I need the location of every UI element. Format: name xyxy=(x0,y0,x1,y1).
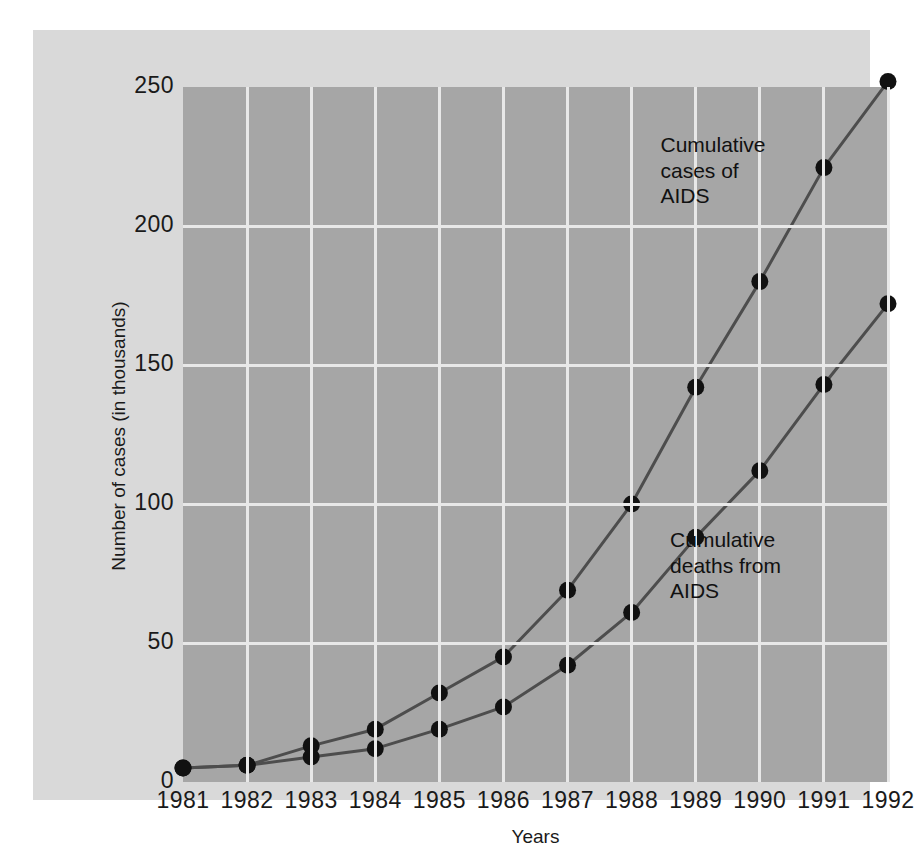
gridline-vertical xyxy=(502,87,505,782)
series-annotation-label: Cumulative cases of AIDS xyxy=(660,132,765,209)
gridline-horizontal xyxy=(183,364,888,367)
gridline-horizontal xyxy=(183,225,888,228)
gridline-vertical xyxy=(310,87,313,782)
y-axis-tick-label: 250 xyxy=(74,72,174,99)
chart-card: 050100150200250 Number of cases (in thou… xyxy=(33,30,870,800)
gridline-horizontal xyxy=(183,642,888,645)
gridline-vertical xyxy=(630,87,633,782)
series-line xyxy=(183,304,888,768)
gridline-vertical xyxy=(246,87,249,782)
x-axis-tick-label: 1992 xyxy=(848,787,918,814)
series-annotation-label: Cumulative deaths from AIDS xyxy=(670,527,781,604)
plot-area: Cumulative cases of AIDSCumulative death… xyxy=(183,87,888,782)
series-layer xyxy=(183,87,888,782)
x-axis-tick-labels: 1981198219831984198519861987198819891990… xyxy=(183,787,888,823)
gridline-vertical xyxy=(887,87,890,782)
gridline-vertical xyxy=(438,87,441,782)
gridline-vertical xyxy=(566,87,569,782)
y-axis-title: Number of cases (in thousands) xyxy=(108,126,130,746)
x-axis-title: Years xyxy=(183,826,888,848)
gridline-vertical xyxy=(822,87,825,782)
series-line xyxy=(183,81,888,768)
gridline-vertical xyxy=(374,87,377,782)
gridline-horizontal xyxy=(183,503,888,506)
data-point-marker xyxy=(175,760,192,777)
